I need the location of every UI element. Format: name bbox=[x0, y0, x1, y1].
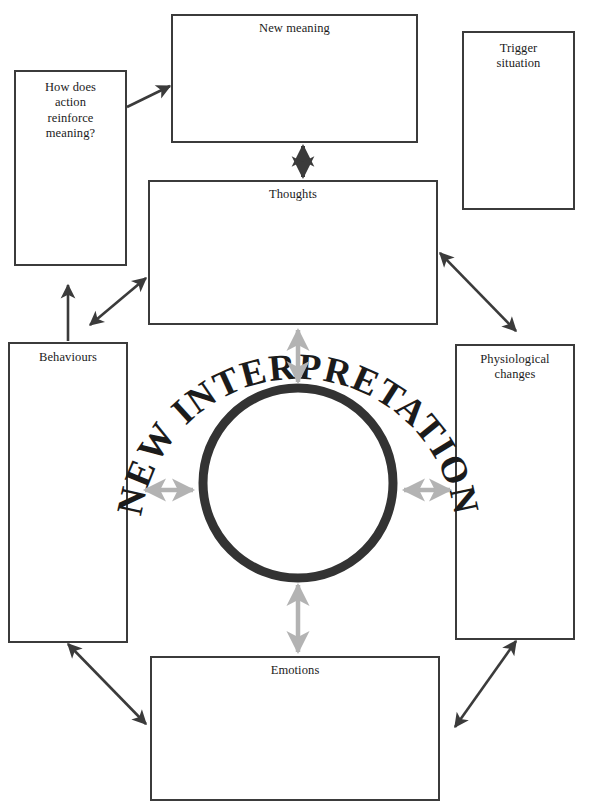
how-line-1: How does bbox=[45, 80, 96, 94]
central-arc-title: NEW INTERPRETATION bbox=[108, 346, 487, 519]
box-behaviours-label: Behaviours bbox=[10, 344, 126, 365]
box-new-meaning-label: New meaning bbox=[173, 16, 416, 36]
box-emotions[interactable]: Emotions bbox=[150, 656, 440, 801]
how-line-3: reinforce bbox=[47, 111, 93, 125]
diagram-canvas: New meaning Trigger situation How does a… bbox=[0, 0, 590, 812]
box-how-does-action-label: How does action reinforce meaning? bbox=[16, 72, 125, 141]
central-circle bbox=[203, 388, 393, 578]
arrow-how-does-action-to-new-meaning bbox=[127, 86, 170, 107]
arrow-thoughts-to-behaviours-diagonal bbox=[90, 278, 146, 325]
physiological-line-2: changes bbox=[495, 367, 536, 381]
box-how-does-action-reinforce-meaning[interactable]: How does action reinforce meaning? bbox=[14, 70, 127, 266]
how-line-4: meaning? bbox=[46, 126, 95, 140]
box-physiological-changes-label: Physiological changes bbox=[457, 346, 573, 383]
box-physiological-changes[interactable]: Physiological changes bbox=[455, 344, 575, 640]
arrow-thoughts-to-physiological bbox=[440, 253, 516, 331]
box-trigger-situation-label: Trigger situation bbox=[464, 33, 573, 72]
box-new-meaning[interactable]: New meaning bbox=[171, 14, 418, 143]
trigger-line-1: Trigger bbox=[500, 41, 538, 55]
arrow-behaviours-to-emotions bbox=[68, 644, 146, 724]
box-behaviours[interactable]: Behaviours bbox=[8, 342, 128, 643]
box-trigger-situation[interactable]: Trigger situation bbox=[462, 31, 575, 210]
arrow-physiological-to-emotions bbox=[455, 641, 516, 727]
central-arc-title-text: NEW INTERPRETATION bbox=[108, 346, 487, 519]
trigger-line-2: situation bbox=[497, 56, 541, 70]
how-line-2: action bbox=[55, 95, 86, 109]
box-thoughts-label: Thoughts bbox=[150, 182, 436, 202]
box-emotions-label: Emotions bbox=[152, 658, 438, 678]
physiological-line-1: Physiological bbox=[480, 352, 549, 366]
box-thoughts[interactable]: Thoughts bbox=[148, 180, 438, 325]
